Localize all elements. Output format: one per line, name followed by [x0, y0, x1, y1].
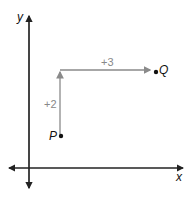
- coordinate-diagram: y x +2 +3 P Q: [0, 0, 192, 197]
- point-q-marker: [154, 70, 158, 74]
- y-axis-label: y: [16, 10, 24, 24]
- point-q-label: Q: [159, 63, 168, 77]
- horizontal-step-label: +3: [101, 56, 114, 68]
- point-p-marker: [59, 134, 63, 138]
- x-axis-label: x: [175, 170, 183, 184]
- vertical-step-label: +2: [44, 98, 57, 110]
- point-p-label: P: [49, 129, 57, 143]
